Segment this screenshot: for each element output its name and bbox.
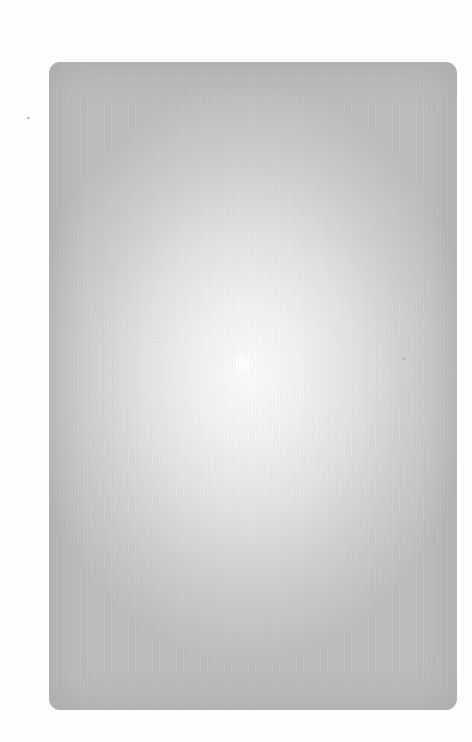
light-glare: [232, 350, 254, 376]
dust-speck: [27, 117, 30, 119]
page-background: [0, 0, 472, 742]
blank-card: [49, 62, 457, 710]
dust-speck: [402, 358, 405, 360]
